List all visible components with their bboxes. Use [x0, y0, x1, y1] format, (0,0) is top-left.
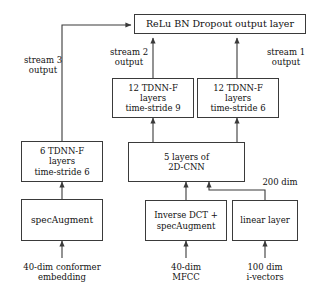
node-output-layer-label: ReLu BN Dropout output layer	[146, 18, 294, 29]
label-stream1-output: stream 1 output	[255, 47, 317, 67]
node-output-layer[interactable]: ReLu BN Dropout output layer	[134, 14, 306, 34]
node-stream2-tdnnf-line3: time-stride 9	[125, 103, 180, 113]
node-stream3-tdnnf-line1: 6 TDNN-F	[40, 146, 84, 156]
node-inverse-dct[interactable]: Inverse DCT + specAugment	[145, 200, 227, 241]
node-linear-layer-label: linear layer	[240, 215, 289, 225]
label-stream2-output-line2: output	[98, 57, 160, 67]
label-stream2-output: stream 2 output	[98, 47, 160, 67]
label-input-ivectors-line1: 100 dim	[234, 262, 296, 272]
node-linear-layer[interactable]: linear layer	[232, 200, 298, 241]
label-input-mfcc-line1: 40-dim	[156, 262, 216, 272]
label-input-conformer: 40-dim conformer embedding	[6, 262, 118, 282]
label-input-mfcc: 40-dim MFCC	[156, 262, 216, 282]
node-specaugment-label: specAugment	[31, 215, 93, 226]
label-200-dim-text: 200 dim	[256, 177, 304, 187]
node-stream1-tdnnf[interactable]: 12 TDNN-F layers time-stride 6	[197, 78, 279, 118]
label-input-ivectors: 100 dim i-vectors	[234, 262, 296, 282]
label-input-ivectors-line2: i-vectors	[234, 272, 296, 282]
node-inverse-dct-line2: specAugment	[157, 221, 216, 231]
node-stream2-tdnnf-line1: 12 TDNN-F	[128, 83, 178, 93]
label-input-conformer-line1: 40-dim conformer	[6, 262, 118, 272]
label-input-mfcc-line2: MFCC	[156, 272, 216, 282]
node-2d-cnn[interactable]: 5 layers of 2D-CNN	[128, 142, 245, 182]
label-stream1-output-line2: output	[255, 57, 317, 67]
node-stream1-tdnnf-line1: 12 TDNN-F	[213, 83, 263, 93]
node-2d-cnn-line2: 2D-CNN	[168, 162, 205, 172]
node-stream1-tdnnf-line3: time-stride 6	[210, 103, 265, 113]
label-stream1-output-line1: stream 1	[255, 47, 317, 57]
node-stream3-tdnnf[interactable]: 6 TDNN-F layers time-stride 6	[21, 141, 103, 182]
node-stream1-tdnnf-line2: layers	[225, 93, 251, 103]
node-stream3-tdnnf-line3: time-stride 6	[34, 167, 89, 177]
node-stream2-tdnnf[interactable]: 12 TDNN-F layers time-stride 9	[112, 78, 194, 118]
node-2d-cnn-line1: 5 layers of	[164, 152, 209, 162]
label-200-dim: 200 dim	[256, 177, 304, 187]
label-stream3-output-line1: stream 3	[12, 55, 74, 65]
label-stream2-output-line1: stream 2	[98, 47, 160, 57]
label-input-conformer-line2: embedding	[6, 272, 118, 282]
node-inverse-dct-line1: Inverse DCT +	[154, 210, 218, 220]
node-stream3-tdnnf-line2: layers	[49, 156, 75, 166]
node-stream2-tdnnf-line2: layers	[140, 93, 166, 103]
architecture-diagram: ReLu BN Dropout output layer 12 TDNN-F l…	[0, 0, 326, 296]
label-stream3-output: stream 3 output	[12, 55, 74, 75]
label-stream3-output-line2: output	[12, 65, 74, 75]
node-specaugment[interactable]: specAugment	[21, 199, 103, 241]
